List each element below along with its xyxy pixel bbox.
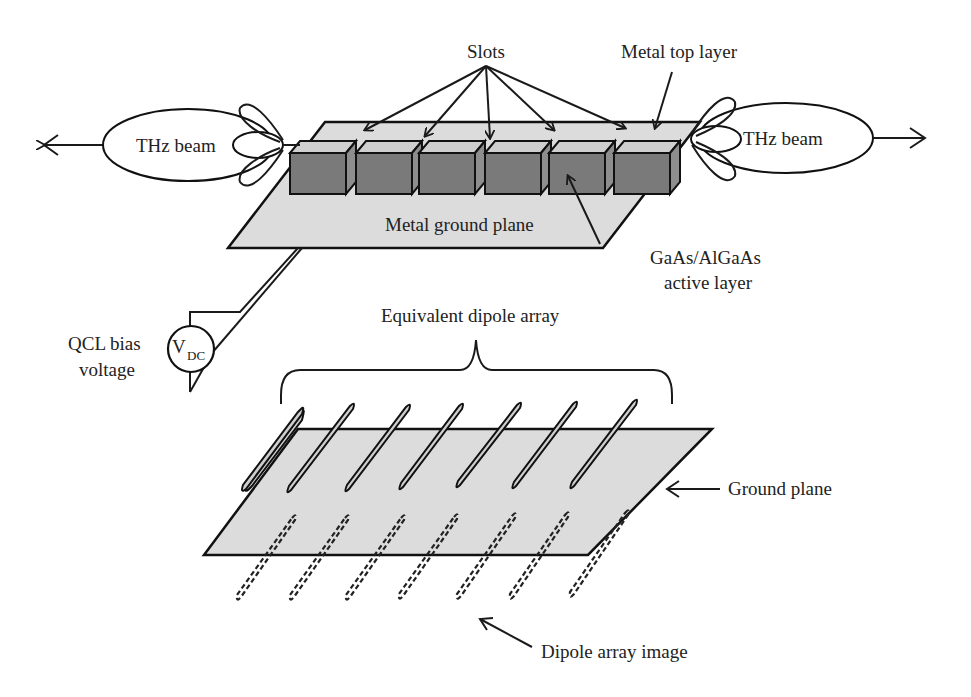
- slot-block: [614, 141, 680, 194]
- ground-plane-label: Ground plane: [728, 478, 832, 499]
- slot-block: [356, 141, 422, 194]
- thz-beam-right-label: THz beam: [743, 128, 823, 149]
- dipole-image-arrow: [480, 619, 532, 647]
- metal-top-layer-label: Metal top layer: [621, 41, 738, 62]
- equivalent-dipole-array-label: Equivalent dipole array: [381, 305, 560, 326]
- active-layer-label-1: GaAs/AlGaAs: [650, 247, 761, 268]
- slot-blocks: [290, 141, 680, 194]
- vdc-subscript: DC: [187, 348, 205, 363]
- slot-block: [290, 141, 356, 194]
- thz-beam-left-label: THz beam: [136, 135, 216, 156]
- dipole-array-image-label: Dipole array image: [541, 641, 688, 662]
- qcl-dipole-diagram: Slots Metal top layer THz beam THz beam …: [0, 0, 971, 697]
- slots-label: Slots: [467, 41, 505, 62]
- vdc-label: V: [172, 336, 186, 357]
- slot-block: [419, 141, 485, 194]
- slot-block: [485, 141, 551, 194]
- equivalent-array-brace: [281, 340, 672, 404]
- bias-wires: [190, 248, 302, 392]
- active-layer-label-2: active layer: [664, 272, 753, 293]
- qcl-bias-label-2: voltage: [79, 359, 135, 380]
- slot-block: [549, 141, 615, 194]
- metal-ground-plane-label: Metal ground plane: [385, 214, 534, 235]
- qcl-bias-label-1: QCL bias: [68, 333, 141, 354]
